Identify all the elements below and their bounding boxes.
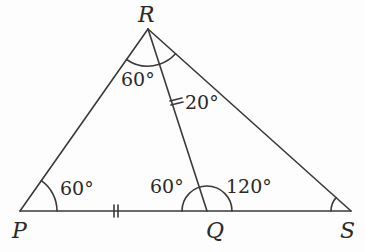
tick-mark-rq-1 xyxy=(170,98,182,101)
vertex-label-s: S xyxy=(340,218,355,243)
angle-label-rqs: 120° xyxy=(226,175,272,197)
geometry-diagram: R P Q S 60° 60° 20° 60° 120° xyxy=(0,0,365,252)
angle-arc-p xyxy=(41,181,57,211)
vertex-label-q: Q xyxy=(206,218,224,243)
angle-label-qrs: 20° xyxy=(185,91,219,113)
angle-arc-s xyxy=(331,198,336,211)
angle-arc-prq xyxy=(127,60,160,67)
triangle-figure: R P Q S 60° 60° 20° 60° 120° xyxy=(0,0,365,252)
vertex-label-p: P xyxy=(11,218,28,243)
angle-arc-q xyxy=(182,186,232,211)
angle-arc-qrs xyxy=(159,54,175,64)
angle-label-prq: 60° xyxy=(121,68,155,90)
angle-label-p: 60° xyxy=(60,177,94,199)
angle-label-pqr: 60° xyxy=(150,175,184,197)
vertex-label-r: R xyxy=(137,2,155,27)
